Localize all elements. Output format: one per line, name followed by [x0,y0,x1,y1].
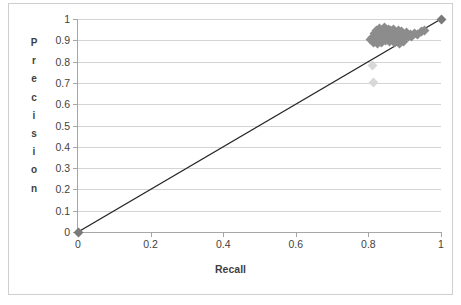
x-axis-tick-label: 0.4 [208,239,238,250]
x-axis-title: Recall [0,263,461,275]
y-axis-tick-mark [73,104,77,105]
y-axis-tick-label: 0.3 [55,163,70,173]
y-axis-tick-mark [73,189,77,190]
x-axis-line [78,232,442,233]
trendline-segment [78,19,441,232]
plot-area [78,19,441,232]
x-axis-tick-mark [223,233,224,237]
trendline [78,19,441,232]
y-axis-tick-mark [73,40,77,41]
y-axis-tick-label: 0.2 [55,184,70,194]
y-axis-tick-mark [73,126,77,127]
y-axis-tick-label: 1 [64,14,70,24]
x-axis-tick-label: 1 [426,239,456,250]
y-axis-tick-mark [73,83,77,84]
x-axis-tick-label: 0.6 [281,239,311,250]
y-axis-tick-label: 0.1 [55,206,70,216]
y-axis-tick-label: 0 [64,227,70,237]
y-axis-tick-label: 0.5 [55,121,70,131]
y-axis-tick-mark [73,168,77,169]
x-axis-tick-mark [441,233,442,237]
y-axis-tick-mark [73,147,77,148]
y-axis-tick-label: 0.8 [55,57,70,67]
y-axis-tick-labels: 00.10.20.30.40.50.60.70.80.91 [36,0,70,305]
y-axis-tick-label: 0.7 [55,78,70,88]
x-axis-tick-mark [368,233,369,237]
y-axis-tick-mark [73,62,77,63]
y-axis-tick-mark [73,211,77,212]
x-axis-tick-mark [296,233,297,237]
chart-container: Precision 00.10.20.30.40.50.60.70.80.91 … [0,0,461,305]
x-axis-tick-mark [151,233,152,237]
x-axis-tick-label: 0.2 [136,239,166,250]
y-axis-tick-mark [73,19,77,20]
y-axis-tick-label: 0.4 [55,142,70,152]
x-axis-tick-label: 0 [63,239,93,250]
y-axis-tick-label: 0.9 [55,35,70,45]
x-axis-tick-label: 0.8 [353,239,383,250]
y-axis-tick-label: 0.6 [55,99,70,109]
